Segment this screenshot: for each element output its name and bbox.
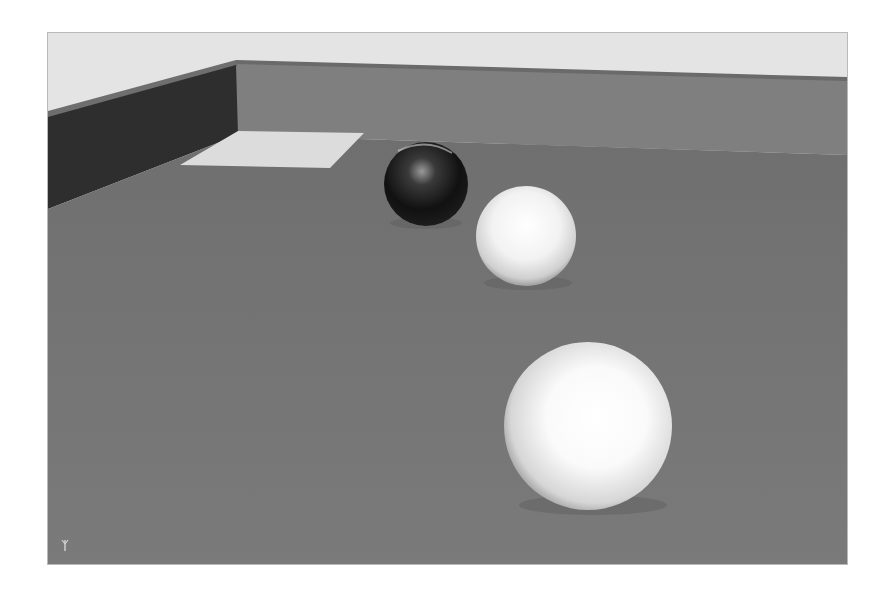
axis-gizmo-icon [60,538,70,552]
dark-sphere [384,142,468,226]
white-sphere-large [504,342,672,510]
render-viewport[interactable]: 3D render viewport [47,32,848,565]
white-sphere-small [476,186,576,286]
scene-canvas [48,33,847,564]
